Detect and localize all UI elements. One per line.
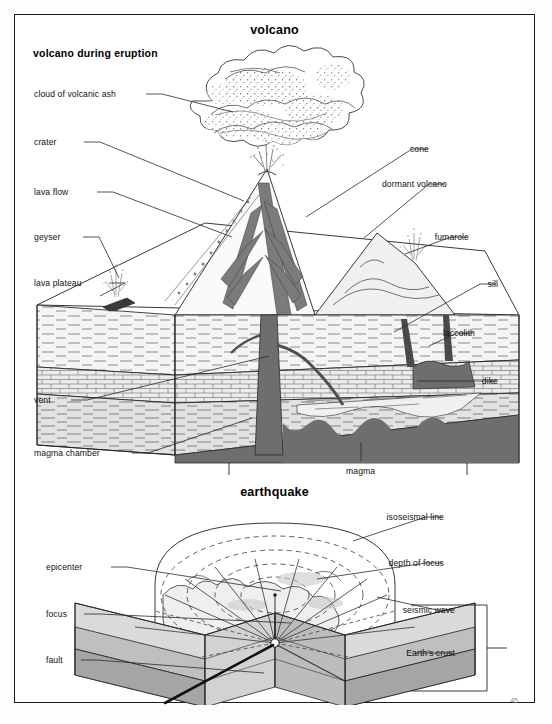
leader-geyser — [83, 237, 119, 278]
label-fumarole: fumarole — [435, 232, 469, 242]
leader-lava-plateau — [100, 283, 125, 296]
label-dormant-volcano: dormant volcano — [382, 179, 447, 189]
leader-epicenter — [111, 567, 281, 591]
page-frame: volcano volcano during eruption earthqua… — [14, 14, 535, 703]
leader-dormant-volcano — [364, 184, 445, 238]
leader-fault — [81, 660, 264, 673]
diagram-page: volcano volcano during eruption earthqua… — [0, 0, 552, 724]
label-magma: magma — [346, 466, 375, 476]
leader-magma-chamber — [132, 418, 252, 453]
label-vent: vent — [34, 395, 51, 405]
leader-cloud-of-volcanic-ash — [146, 94, 233, 112]
label-fault: fault — [46, 655, 63, 665]
label-dike: dike — [482, 376, 498, 386]
label-sill: sill — [488, 279, 498, 289]
leader-lava-flow — [97, 192, 232, 237]
label-crater: crater — [34, 137, 57, 147]
leader-lines-layer — [15, 15, 536, 704]
label-cloud-of-volcanic-ash: cloud of volcanic ash — [34, 89, 116, 99]
label-lava-flow: lava flow — [34, 187, 68, 197]
label-focus: focus — [46, 609, 67, 619]
leader-vent — [71, 356, 269, 400]
label-cone: cone — [410, 144, 429, 154]
leader-sill — [394, 284, 496, 332]
page-number: 45 — [510, 697, 518, 704]
label-isoseismal-line: isoseismal line — [387, 512, 444, 522]
label-laccolith: laccolith — [443, 328, 475, 338]
leader-focus — [84, 614, 291, 623]
label-earth-s-crust: Earth's crust — [406, 648, 455, 658]
label-depth-of-focus: depth of focus — [389, 558, 444, 568]
label-epicenter: epicenter — [46, 562, 82, 572]
label-magma-chamber: magma chamber — [34, 448, 100, 458]
label-seismic-wave: seismic wave — [403, 605, 455, 615]
label-lava-plateau: lava plateau — [34, 278, 82, 288]
label-geyser: geyser — [34, 232, 60, 242]
